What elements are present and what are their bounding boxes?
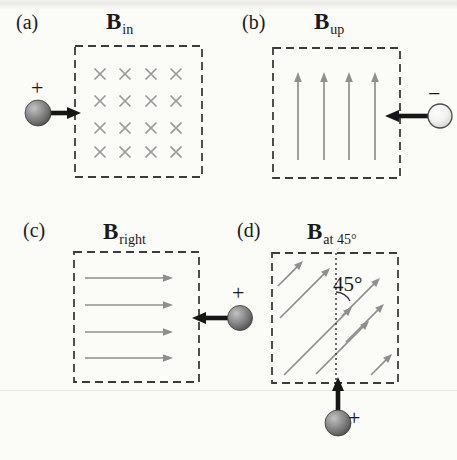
field-cross-icon [146,147,157,158]
field-cross-icon [95,123,106,134]
field-region-box-b [273,48,400,178]
field-arrow-up-icon [294,72,302,160]
field-arrow-up-icon [371,72,379,160]
panel-b-charge-sign: − [428,83,440,105]
field-cross-icon [171,123,182,134]
panel-a-field-subscript: in [122,22,133,37]
negative-charge-sphere [428,104,452,128]
field-region-box-c [74,252,199,382]
positive-charge-sphere [228,306,253,331]
velocity-arrow-right-icon [49,107,81,119]
panel-d-charge-sign: + [348,407,360,429]
panel-b-field-subscript: up [330,22,344,37]
panel-c-field-symbol: B [103,219,118,244]
panel-a-field-symbol: B [106,9,121,34]
field-arrow-right-icon [85,274,173,282]
velocity-arrow-up-icon [332,377,344,412]
panel-c-field-title: Bright [103,220,146,243]
panel-d-field-symbol: B [307,219,322,244]
velocity-arrow-left-icon [192,312,229,324]
panel-d-field-title: Bat 45° [307,220,357,243]
field-cross-icon [146,123,157,134]
field-cross-icon [146,96,157,107]
panel-d-field-subscript: at 45° [323,232,356,247]
arrows-right [85,274,173,362]
arrows-up [294,72,379,160]
field-arrow-45deg-icon [284,307,352,375]
field-cross-icon [95,147,106,158]
field-arrow-right-icon [85,328,173,336]
panel-c-field-subscript: right [119,232,145,247]
field-cross-icon [120,147,131,158]
field-cross-icon [171,69,182,80]
panel-b-field-symbol: B [314,9,329,34]
field-cross-icon [171,147,182,158]
panel-a-field-title: Bin [106,10,133,33]
field-region-box-a [75,46,202,177]
field-arrow-right-icon [85,354,173,362]
field-cross-icon [120,96,131,107]
panel-b-letter: (b) [242,12,265,32]
field-arrow-45deg-icon [371,354,392,375]
field-cross-icon [146,69,157,80]
field-arrow-up-icon [345,72,353,160]
figure-diagram [0,0,457,460]
angle-45-label: 45° [333,274,362,295]
field-arrow-45deg-icon [316,321,369,374]
field-cross-icon [95,69,106,80]
field-cross-icon [95,96,106,107]
panel-b-field-title: Bup [314,10,344,33]
crosses-into-page [95,69,182,158]
panel-a-letter: (a) [16,12,38,32]
panel-c-letter: (c) [23,220,45,240]
field-cross-icon [120,123,131,134]
positive-charge-sphere [25,100,51,126]
panel-a-charge-sign: + [31,77,43,99]
velocity-arrow-left-icon [385,110,429,122]
field-arrow-45deg-icon [278,261,303,286]
field-arrow-45deg-icon [346,304,384,342]
field-cross-icon [120,69,131,80]
field-arrow-up-icon [320,72,328,160]
field-cross-icon [171,96,182,107]
figure-canvas: (a) (b) (c) (d) Bin Bup Bright Bat 45° +… [0,0,457,460]
field-arrow-right-icon [85,301,173,309]
panel-c-charge-sign: + [232,282,244,304]
panel-d-letter: (d) [237,220,260,240]
